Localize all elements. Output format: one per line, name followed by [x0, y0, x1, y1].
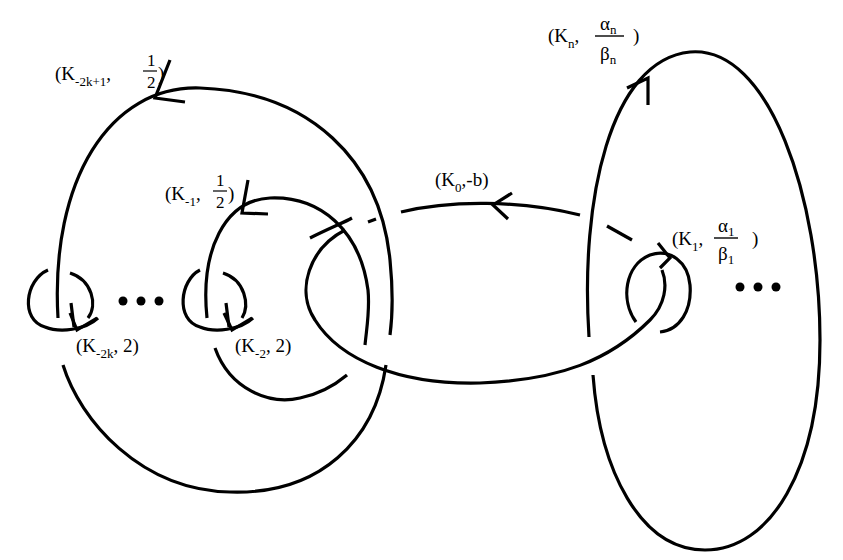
- label-kn: (Kn, αn βn ): [548, 13, 639, 67]
- svg-text:(K-2k, 2): (K-2k, 2): [76, 335, 139, 361]
- svg-text:β1: β1: [718, 243, 734, 267]
- svg-text:α1: α1: [718, 215, 734, 239]
- svg-text:2: 2: [216, 193, 225, 212]
- svg-text:): ): [752, 228, 758, 250]
- component-kn: [587, 52, 820, 550]
- svg-text:1: 1: [216, 171, 225, 190]
- svg-text:): ): [228, 183, 234, 205]
- svg-text:(K-2k+1,: (K-2k+1,: [55, 63, 111, 89]
- svg-text:1: 1: [147, 51, 156, 70]
- label-k1: (K1, α1 β1 ): [672, 215, 758, 267]
- label-k-2k+1: (K-2k+1, 1 2 ): [55, 51, 164, 92]
- component-k0: [306, 193, 665, 383]
- ellipsis-right: [736, 283, 781, 292]
- svg-text:(K0,-b): (K0,-b): [435, 169, 488, 195]
- arrow-icon: [493, 193, 512, 219]
- component-k-2: [183, 270, 253, 330]
- svg-text:αn: αn: [600, 13, 617, 37]
- svg-text:): ): [633, 25, 639, 47]
- label-k-2: (K-2, 2): [235, 335, 291, 361]
- ellipsis-left: [119, 297, 164, 306]
- link-diagram: (K-2k+1, 1 2 ) (K-1, 1 2 ) (K-2k, 2) (K-…: [0, 0, 843, 560]
- component-k-2k+1: [57, 60, 392, 492]
- component-k-2k: [28, 270, 98, 330]
- svg-text:(K-1,: (K-1,: [165, 183, 201, 209]
- svg-text:2: 2: [147, 73, 156, 92]
- label-k-1: (K-1, 1 2 ): [165, 171, 234, 212]
- label-k-2k: (K-2k, 2): [76, 335, 139, 361]
- component-k1: [627, 243, 690, 332]
- label-k0: (K0,-b): [435, 169, 488, 195]
- svg-text:(K-2, 2): (K-2, 2): [235, 335, 291, 361]
- svg-text:): ): [158, 63, 164, 85]
- arrow-icon: [658, 243, 670, 268]
- svg-text:(Kn,: (Kn,: [548, 25, 579, 51]
- svg-text:βn: βn: [600, 43, 617, 67]
- svg-text:(K1,: (K1,: [672, 228, 703, 254]
- component-k-1: [206, 180, 369, 400]
